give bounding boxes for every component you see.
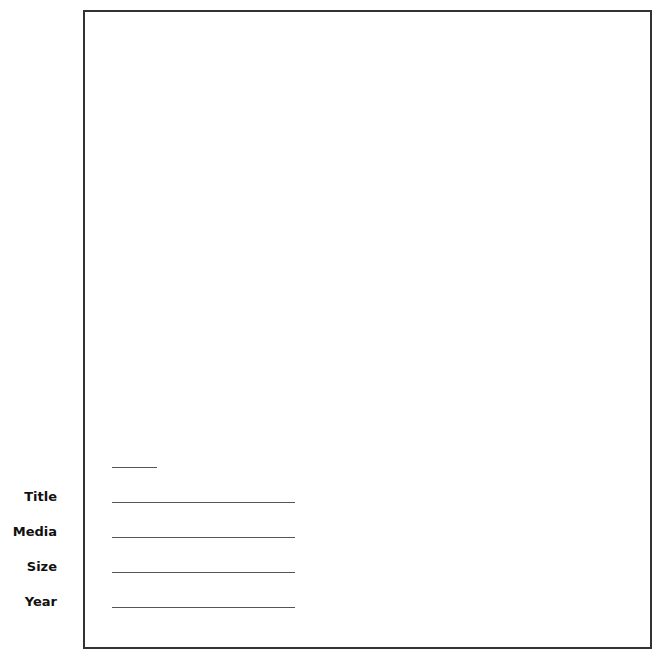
year-field-line	[112, 607, 295, 608]
size-field-line	[112, 572, 295, 573]
year-label: Year	[25, 594, 57, 609]
number-line	[112, 467, 157, 468]
media-field-line	[112, 537, 295, 538]
media-label: Media	[13, 524, 57, 539]
title-label: Title	[24, 489, 57, 504]
artwork-frame	[83, 10, 652, 649]
title-field-line	[112, 502, 295, 503]
size-label: Size	[27, 559, 57, 574]
